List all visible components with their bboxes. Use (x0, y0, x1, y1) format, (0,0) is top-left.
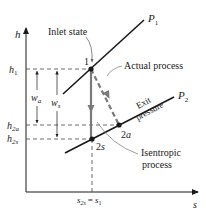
state-point-2a (116, 122, 121, 127)
h1-tick-label: h1 (9, 64, 18, 77)
isentropic-annotation-line2: process (142, 159, 172, 170)
state-2s-label: 2s (96, 141, 105, 152)
state-point-2s (89, 136, 94, 141)
ws-label: ws (51, 97, 61, 110)
actual-process-annotation: Actual process (124, 60, 183, 71)
actual-process-leader (107, 66, 122, 76)
s2s-equals-s1-label: s2s=s1 (77, 195, 101, 206)
h2s-tick-label: h2s (7, 133, 19, 146)
isentropic-direction-arrow (88, 105, 95, 113)
h-axis-label: h (15, 28, 21, 40)
p2-label: P2 (177, 89, 189, 104)
inlet-state-annotation: Inlet state (48, 26, 88, 37)
actual-process-line (91, 69, 119, 125)
state-2a-label: 2a (121, 129, 131, 140)
state-1-label: 1 (84, 56, 89, 67)
isentropic-annotation-line1: Isentropic (141, 147, 182, 158)
p1-label: P1 (147, 12, 159, 27)
h2a-tick-label: h2a (7, 120, 20, 133)
state-point-1 (88, 66, 93, 71)
h-s-diagram: h s P1 P2 1 2s 2a h1 h2a h2s s2s=s1 wa w… (0, 0, 206, 213)
s-axis-label: s (193, 199, 197, 210)
wa-label: wa (31, 92, 42, 105)
